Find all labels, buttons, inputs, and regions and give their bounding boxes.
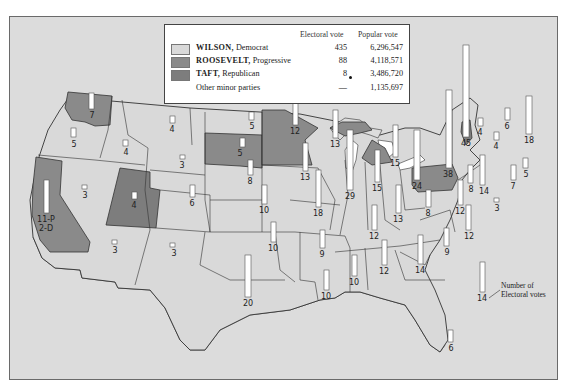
svg-text:10: 10: [321, 292, 331, 301]
svg-text:3: 3: [171, 249, 176, 258]
legend-header-popular: Popular vote: [358, 30, 398, 39]
svg-text:9: 9: [319, 250, 324, 259]
electoral-vote: 8: [317, 69, 347, 78]
svg-text:12: 12: [379, 267, 389, 276]
legend-header-electoral: Electoral vote: [300, 30, 344, 39]
svg-text:29: 29: [345, 192, 355, 201]
svg-text:12: 12: [464, 232, 474, 241]
svg-text:10: 10: [349, 278, 359, 287]
svg-text:3: 3: [82, 191, 87, 200]
svg-text:24: 24: [412, 182, 422, 191]
legend-row-roosevelt: ROOSEVELT, Progressive 88 4,118,571: [165, 56, 409, 68]
legend-row-taft: TAFT, Republican 8 3,486,720: [165, 69, 409, 81]
party-name: Republican: [222, 69, 259, 78]
svg-text:7: 7: [89, 111, 94, 120]
svg-text:10: 10: [259, 206, 269, 215]
legend-row-wilson: WILSON, Democrat 435 6,296,547: [165, 43, 409, 55]
roosevelt-swatch: [171, 57, 190, 68]
candidate-name: ROOSEVELT,: [196, 56, 251, 65]
svg-text:8: 8: [247, 177, 252, 186]
svg-text:9: 9: [444, 248, 449, 257]
svg-text:8: 8: [468, 185, 473, 194]
taft-swatch: [171, 70, 190, 81]
svg-text:13: 13: [393, 215, 403, 224]
svg-text:12: 12: [369, 232, 379, 241]
electoral-vote: 88: [317, 56, 347, 65]
svg-text:6: 6: [448, 344, 453, 353]
svg-text:11-P: 11-P: [37, 215, 55, 224]
svg-text:13: 13: [300, 173, 310, 182]
legend-row-other: Other minor parties — 1,135,697: [165, 83, 409, 95]
svg-text:45: 45: [461, 139, 471, 148]
svg-text:18: 18: [524, 136, 534, 145]
svg-text:20: 20: [243, 299, 253, 308]
party-name: Democrat: [236, 43, 268, 52]
svg-text:3: 3: [112, 246, 117, 255]
svg-text:12: 12: [455, 207, 465, 216]
svg-text:12: 12: [290, 127, 300, 136]
svg-text:18: 18: [313, 209, 323, 218]
svg-text:4: 4: [123, 148, 128, 157]
svg-text:4: 4: [169, 125, 174, 134]
svg-text:14: 14: [477, 294, 487, 303]
svg-text:15: 15: [372, 184, 382, 193]
svg-text:5: 5: [237, 149, 242, 158]
annotation-line1: Number of: [501, 281, 534, 290]
state-south-dakota: [205, 133, 262, 168]
annotation-leader: [489, 290, 500, 298]
party-name: Other minor parties: [196, 83, 260, 92]
svg-text:8: 8: [425, 209, 430, 218]
wilson-swatch: [171, 44, 190, 55]
svg-text:13: 13: [330, 140, 340, 149]
electoral-vote: 435: [317, 43, 347, 52]
svg-text:15: 15: [390, 159, 400, 168]
svg-text:4: 4: [131, 201, 136, 210]
popular-vote: 6,296,547: [361, 43, 403, 52]
svg-text:14: 14: [415, 266, 425, 275]
svg-text:3: 3: [179, 161, 184, 170]
candidate-name: WILSON,: [196, 43, 234, 52]
svg-text:4: 4: [493, 142, 498, 151]
popular-vote: 3,486,720: [361, 69, 403, 78]
svg-text:10: 10: [268, 244, 278, 253]
svg-text:3: 3: [494, 204, 499, 213]
svg-text:6: 6: [504, 122, 509, 131]
svg-text:38: 38: [443, 170, 453, 179]
electoral-vote: —: [317, 83, 347, 92]
annotation-line2: Electoral votes: [501, 290, 546, 299]
svg-text:14: 14: [479, 187, 489, 196]
popular-vote: 4,118,571: [361, 56, 403, 65]
svg-text:2-D: 2-D: [39, 224, 53, 233]
party-name: Progressive: [253, 56, 291, 65]
svg-text:5: 5: [71, 140, 76, 149]
svg-text:5: 5: [523, 170, 528, 179]
popular-vote: 1,135,697: [361, 83, 403, 92]
svg-text:7: 7: [510, 182, 515, 191]
svg-text:4: 4: [477, 128, 482, 137]
legend: Electoral vote Popular vote WILSON, Demo…: [164, 24, 410, 104]
svg-text:5: 5: [249, 122, 254, 131]
bullet-mark: [349, 76, 352, 79]
svg-text:6: 6: [189, 199, 194, 208]
candidate-name: TAFT,: [196, 69, 220, 78]
